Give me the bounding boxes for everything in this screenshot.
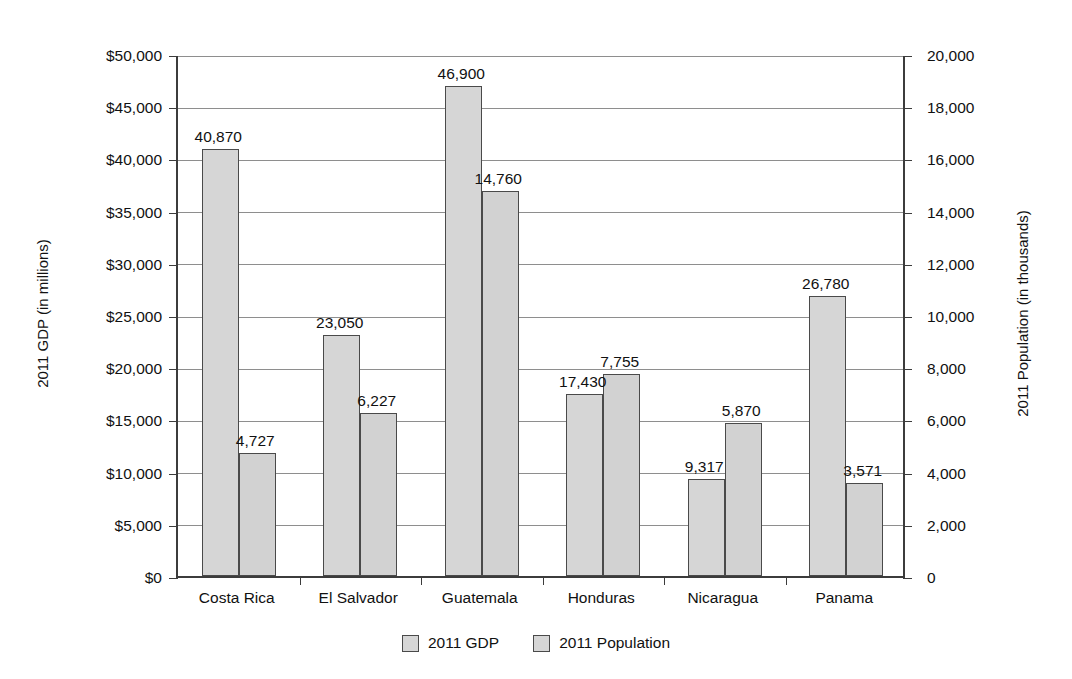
x-axis-tick: [664, 576, 665, 585]
bar-label-gdp: 9,317: [649, 459, 759, 475]
right-axis-tick-label: 20,000: [927, 48, 1037, 64]
bar-label-population: 14,760: [443, 171, 553, 187]
left-axis-tick-label: $15,000: [52, 414, 162, 430]
grouped-bar-chart: 2011 GDP (in millions) 2011 Population (…: [0, 0, 1072, 679]
bar-label-gdp: 40,870: [163, 129, 273, 145]
left-axis-tick: [169, 213, 178, 214]
left-axis-tick: [169, 369, 178, 370]
right-axis-tick-label: 10,000: [927, 309, 1037, 325]
legend-item: 2011 Population: [533, 634, 670, 652]
gridline: [178, 473, 903, 474]
left-axis-tick: [169, 265, 178, 266]
category-label: El Salvador: [298, 589, 420, 607]
bar-label-gdp: 46,900: [406, 66, 516, 82]
right-axis-tick: [903, 369, 912, 370]
bar-gdp: [202, 149, 239, 576]
chart-legend: 2011 GDP2011 Population: [0, 634, 1072, 652]
left-axis-tick-label: $25,000: [52, 309, 162, 325]
right-axis-tick-label: 14,000: [927, 205, 1037, 221]
left-axis-tick-label: $50,000: [52, 48, 162, 64]
bar-gdp: [445, 86, 482, 576]
legend-swatch-gdp: [402, 635, 419, 652]
bar-label-population: 4,727: [200, 433, 310, 449]
right-axis-tick: [903, 213, 912, 214]
bar-gdp: [809, 296, 846, 576]
gridline: [178, 421, 903, 422]
left-axis-tick-label: $5,000: [52, 518, 162, 534]
left-axis-tick: [169, 421, 178, 422]
gridline: [178, 369, 903, 370]
gridline: [178, 212, 903, 213]
left-axis-tick-label: $0: [52, 570, 162, 586]
bar-gdp: [566, 394, 603, 576]
x-axis-tick: [786, 576, 787, 585]
gridline: [178, 56, 903, 57]
bar-population: [239, 453, 276, 576]
gridline: [178, 160, 903, 161]
bar-label-gdp: 17,430: [528, 374, 638, 390]
gridline: [178, 264, 903, 265]
category-label: Panama: [784, 589, 906, 607]
bar-population: [846, 483, 883, 576]
right-axis-tick-label: 16,000: [927, 153, 1037, 169]
right-axis-tick: [903, 56, 912, 57]
legend-label: 2011 GDP: [428, 634, 499, 652]
category-label: Costa Rica: [176, 589, 298, 607]
left-axis-title: 2011 GDP (in millions): [34, 184, 51, 444]
left-axis-tick: [169, 160, 178, 161]
bar-label-population: 5,870: [686, 403, 796, 419]
right-axis-tick-label: 6,000: [927, 414, 1037, 430]
bar-label-population: 3,571: [808, 463, 918, 479]
left-axis-tick-label: $40,000: [52, 153, 162, 169]
bar-population: [360, 413, 397, 576]
bar-label-gdp: 26,780: [771, 276, 881, 292]
bar-label-gdp: 23,050: [285, 315, 395, 331]
left-axis-tick: [169, 474, 178, 475]
left-axis-tick: [169, 526, 178, 527]
category-label: Guatemala: [419, 589, 541, 607]
legend-swatch-population: [533, 635, 550, 652]
gridline: [178, 525, 903, 526]
right-axis-tick: [903, 317, 912, 318]
bar-population: [482, 191, 519, 576]
category-label: Honduras: [541, 589, 663, 607]
right-axis-tick: [903, 108, 912, 109]
right-axis-tick-label: 0: [927, 570, 1037, 586]
left-axis-tick: [169, 108, 178, 109]
left-axis-tick: [169, 56, 178, 57]
left-axis-tick-label: $35,000: [52, 205, 162, 221]
legend-item: 2011 GDP: [402, 634, 499, 652]
right-axis-tick: [903, 160, 912, 161]
left-axis-tick: [169, 317, 178, 318]
right-axis-tick-label: 8,000: [927, 361, 1037, 377]
right-axis-tick-label: 18,000: [927, 100, 1037, 116]
gridline: [178, 108, 903, 109]
left-axis-tick-label: $10,000: [52, 466, 162, 482]
left-axis-tick: [169, 578, 178, 579]
x-axis-tick: [543, 576, 544, 585]
right-axis-tick-label: 4,000: [927, 466, 1037, 482]
bar-gdp: [323, 335, 360, 576]
bar-label-population: 6,227: [322, 393, 432, 409]
bar-label-population: 7,755: [565, 354, 675, 370]
bar-population: [725, 423, 762, 576]
right-axis-tick: [903, 578, 912, 579]
left-axis-tick-label: $45,000: [52, 100, 162, 116]
category-label: Nicaragua: [662, 589, 784, 607]
legend-label: 2011 Population: [559, 634, 670, 652]
right-axis-tick-label: 2,000: [927, 518, 1037, 534]
bar-population: [603, 374, 640, 576]
right-axis-tick: [903, 265, 912, 266]
x-axis-tick: [421, 576, 422, 585]
right-axis-tick: [903, 421, 912, 422]
left-axis-tick-label: $30,000: [52, 257, 162, 273]
left-axis-tick-label: $20,000: [52, 361, 162, 377]
bar-gdp: [688, 479, 725, 576]
right-axis-tick: [903, 526, 912, 527]
right-axis-tick-label: 12,000: [927, 257, 1037, 273]
x-axis-tick: [300, 576, 301, 585]
